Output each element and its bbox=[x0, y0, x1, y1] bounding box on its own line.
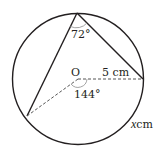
arc-length-label: xcm bbox=[130, 117, 153, 131]
inscribed-angle-label: 72° bbox=[71, 28, 91, 41]
arc-length-unit: cm bbox=[136, 118, 153, 131]
central-angle-label: 144° bbox=[74, 88, 101, 101]
chord-top-to-lower-left bbox=[27, 13, 77, 116]
circle-diagram: 72° O 5 cm 144° xcm bbox=[0, 0, 163, 153]
radius-to-lower-left bbox=[27, 79, 78, 116]
radius-label: 5 cm bbox=[102, 66, 130, 79]
center-label: O bbox=[71, 66, 80, 79]
central-angle-marker bbox=[71, 79, 87, 87]
